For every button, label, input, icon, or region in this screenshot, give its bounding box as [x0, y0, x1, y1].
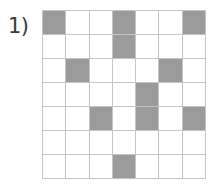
- grid-cell-empty[interactable]: [66, 11, 89, 35]
- grid-cell-shaded[interactable]: [43, 11, 66, 35]
- grid-cell-empty[interactable]: [183, 131, 206, 155]
- grid-cell-empty[interactable]: [159, 83, 182, 107]
- grid-cell-empty[interactable]: [183, 155, 206, 179]
- grid-cell-shaded[interactable]: [113, 11, 136, 35]
- grid-cell-empty[interactable]: [90, 155, 113, 179]
- grid-cell-empty[interactable]: [136, 131, 159, 155]
- grid-cell-empty[interactable]: [43, 107, 66, 131]
- grid-cell-shaded[interactable]: [90, 107, 113, 131]
- grid-cell-shaded[interactable]: [113, 155, 136, 179]
- shaded-grid: [42, 10, 206, 179]
- grid-cell-empty[interactable]: [113, 131, 136, 155]
- grid-cell-empty[interactable]: [43, 131, 66, 155]
- grid-cell-empty[interactable]: [183, 59, 206, 83]
- grid-cell-empty[interactable]: [43, 35, 66, 59]
- grid-cell-shaded[interactable]: [159, 59, 182, 83]
- grid-cell-empty[interactable]: [43, 155, 66, 179]
- grid-cell-empty[interactable]: [90, 11, 113, 35]
- grid-cell-empty[interactable]: [90, 35, 113, 59]
- grid-cell-shaded[interactable]: [66, 59, 89, 83]
- grid-cell-empty[interactable]: [66, 155, 89, 179]
- grid-cell-empty[interactable]: [90, 83, 113, 107]
- grid-cell-empty[interactable]: [113, 107, 136, 131]
- grid-cell-empty[interactable]: [159, 35, 182, 59]
- grid-cell-empty[interactable]: [66, 35, 89, 59]
- grid-cell-empty[interactable]: [159, 11, 182, 35]
- grid-cell-empty[interactable]: [66, 83, 89, 107]
- grid-cell-empty[interactable]: [183, 35, 206, 59]
- grid-cell-empty[interactable]: [159, 131, 182, 155]
- shaded-grid-container: [42, 10, 206, 179]
- grid-cell-empty[interactable]: [43, 83, 66, 107]
- worksheet-problem-item: 1): [0, 0, 219, 186]
- grid-cell-shaded[interactable]: [113, 35, 136, 59]
- grid-cell-empty[interactable]: [43, 59, 66, 83]
- grid-cell-empty[interactable]: [113, 59, 136, 83]
- grid-cell-empty[interactable]: [66, 107, 89, 131]
- grid-cell-shaded[interactable]: [136, 107, 159, 131]
- grid-cell-empty[interactable]: [136, 35, 159, 59]
- grid-cell-empty[interactable]: [159, 155, 182, 179]
- grid-cell-empty[interactable]: [136, 59, 159, 83]
- grid-cell-empty[interactable]: [136, 11, 159, 35]
- grid-cell-empty[interactable]: [183, 83, 206, 107]
- grid-cell-shaded[interactable]: [183, 11, 206, 35]
- problem-number-label: 1): [8, 10, 40, 42]
- grid-cell-empty[interactable]: [136, 155, 159, 179]
- grid-cell-empty[interactable]: [90, 59, 113, 83]
- grid-cell-empty[interactable]: [90, 131, 113, 155]
- grid-cell-empty[interactable]: [159, 107, 182, 131]
- grid-cell-empty[interactable]: [113, 83, 136, 107]
- grid-cell-shaded[interactable]: [183, 107, 206, 131]
- grid-cell-shaded[interactable]: [136, 83, 159, 107]
- grid-cell-empty[interactable]: [66, 131, 89, 155]
